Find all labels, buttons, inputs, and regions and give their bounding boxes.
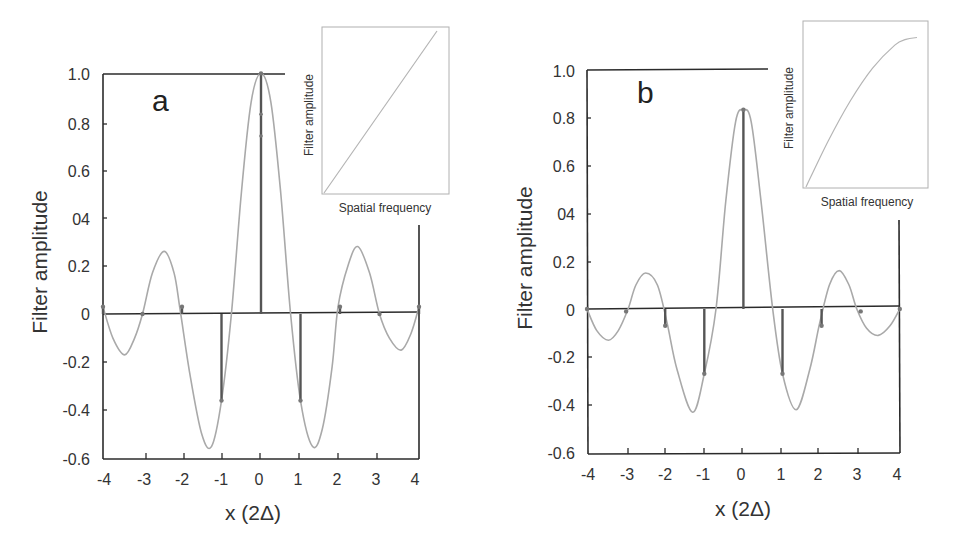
stem-marker (702, 372, 706, 376)
x-tick-label: -2 (175, 471, 189, 488)
x-tick-labels: -4 -3 -2 -1 0 1 2 3 4 (97, 471, 420, 488)
stem-marker (898, 307, 902, 311)
x-tick-label: 2 (333, 471, 342, 488)
stem-marker (741, 108, 745, 112)
x-tick-label: 4 (411, 471, 420, 488)
x-axis-title: x (2Δ) (225, 501, 281, 524)
x-tick-label: 0 (737, 466, 746, 483)
y-tick-label: 0.2 (553, 254, 575, 271)
x-tick-labels: -4 -3 -2 -1 0 1 2 3 4 (581, 466, 902, 483)
x-tick-label: 1 (294, 471, 303, 488)
x-tick-label: -4 (581, 466, 595, 483)
y-tick-label: 1.0 (68, 66, 90, 83)
inset-b: Spatial frequency Filter amplitude (782, 21, 928, 209)
y-tick-label: 04 (72, 211, 90, 228)
x-tick-label: 1 (777, 466, 786, 483)
x-tick-label: -3 (620, 466, 634, 483)
stem-marker (219, 398, 223, 402)
inset-x-label: Spatial frequency (339, 201, 432, 215)
stem-marker (298, 398, 302, 402)
y-tick-label: 0.8 (68, 116, 90, 133)
x-tick-label: 2 (814, 466, 823, 483)
stem-marker (101, 305, 105, 309)
stem-marker (780, 372, 784, 376)
x-tick-label: -4 (97, 471, 111, 488)
y-tick-label: 1.0 (553, 63, 575, 80)
x-tick-label: -1 (696, 466, 710, 483)
x-tick-label: 4 (893, 466, 902, 483)
y-tick-label: -0.2 (62, 354, 90, 371)
top-axis-line (587, 69, 768, 70)
stem-marker (663, 324, 667, 328)
y-tick-label: 0 (566, 302, 575, 319)
x-ticks (146, 453, 377, 459)
y-tick-label: 0.2 (68, 258, 90, 275)
stem-marker (377, 312, 381, 316)
stem-marker (259, 134, 263, 138)
y-tick-label: -0.6 (547, 445, 575, 462)
y-tick-label: -0.4 (62, 402, 90, 419)
right-axis-line (899, 220, 900, 453)
stem-marker (585, 307, 589, 311)
inset-frame (803, 21, 928, 188)
stem-marker (819, 324, 823, 328)
stem-marker (624, 309, 628, 313)
stem-marker (259, 71, 263, 75)
y-tick-labels: 1.0 0.8 0.6 04 0.2 0 -0.2 -0.4 -0.6 (547, 63, 575, 462)
x-tick-label: 3 (372, 471, 381, 488)
x-tick-label: 3 (853, 466, 862, 483)
x-tick-label: -3 (137, 471, 151, 488)
figure: 1.0 0.8 0.6 04 0.2 0 -0.2 -0.4 -0.6 -4 -… (0, 0, 955, 549)
x-tick-label: 0 (255, 471, 264, 488)
stem-marker (180, 305, 184, 309)
x-axis-title: x (2Δ) (715, 497, 771, 520)
inset-y-label: Filter amplitude (302, 74, 316, 156)
y-tick-label: 04 (557, 206, 575, 223)
y-tick-label: 0.6 (68, 163, 90, 180)
panel-a-chart: 1.0 0.8 0.6 04 0.2 0 -0.2 -0.4 -0.6 -4 -… (28, 27, 449, 524)
stem-marker (417, 305, 421, 309)
stem-marker (338, 305, 342, 309)
stem-marker (259, 113, 263, 117)
y-tick-label: 0.8 (553, 110, 575, 127)
panel-letter: b (637, 76, 654, 109)
stem-marker (859, 309, 863, 313)
y-axis-title: Filter amplitude (513, 186, 536, 330)
stem-marker (140, 312, 144, 316)
x-axis-bottom-line (588, 453, 900, 454)
y-tick-label: -0.6 (62, 451, 90, 468)
y-tick-label: 0 (81, 306, 90, 323)
y-tick-label: -0.4 (547, 397, 575, 414)
y-tick-label: -0.2 (547, 349, 575, 366)
x-tick-label: -1 (214, 471, 228, 488)
y-tick-labels: 1.0 0.8 0.6 04 0.2 0 -0.2 -0.4 -0.6 (62, 66, 90, 468)
y-axis-title: Filter amplitude (28, 190, 51, 334)
panel-b-chart: 1.0 0.8 0.6 04 0.2 0 -0.2 -0.4 -0.6 -4 -… (513, 21, 928, 520)
panel-letter: a (152, 84, 169, 117)
inset-a: Spatial frequency Filter amplitude (302, 27, 449, 215)
y-tick-label: 0.6 (553, 158, 575, 175)
x-tick-label: -2 (658, 466, 672, 483)
inset-x-label: Spatial frequency (821, 195, 914, 209)
inset-y-label: Filter amplitude (782, 67, 796, 149)
